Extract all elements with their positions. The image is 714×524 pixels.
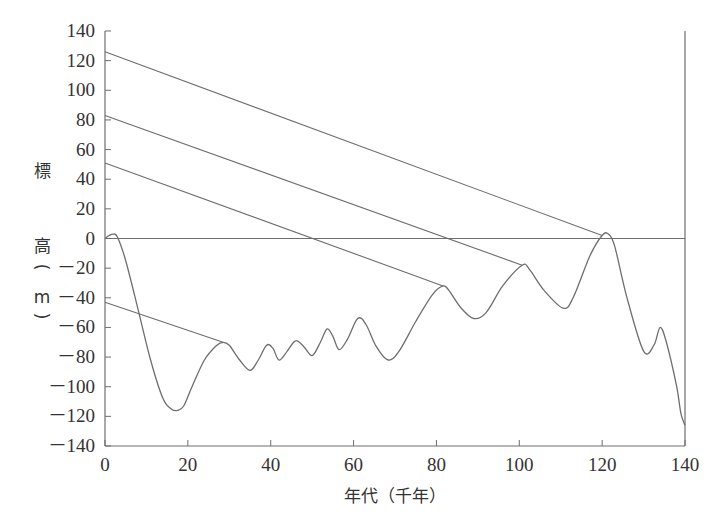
y-axis-ticks: 140120100806040200－20－40－60－80－100－120－1… <box>48 20 112 456</box>
terrace-line <box>105 302 223 342</box>
x-axis-ticks: 020406080100120140 <box>100 440 699 475</box>
terrace-line <box>105 52 602 236</box>
x-tick-label: 80 <box>427 454 446 475</box>
sea-level-curve <box>105 233 685 426</box>
y-tick-label: 140 <box>67 20 96 41</box>
y-tick-label: －140 <box>48 435 96 456</box>
y-axis-title-char: ( <box>32 264 52 271</box>
x-tick-label: 140 <box>671 454 700 475</box>
x-axis-title: 年代（千年） <box>344 486 446 506</box>
y-axis-title-char: 標 <box>34 161 51 181</box>
terrace-lines <box>105 52 602 343</box>
y-tick-label: 80 <box>76 109 95 130</box>
x-tick-label: 40 <box>261 454 280 475</box>
x-tick-label: 100 <box>505 454 534 475</box>
y-tick-label: －80 <box>57 346 95 367</box>
y-tick-label: －120 <box>48 405 96 426</box>
x-tick-label: 0 <box>100 454 110 475</box>
y-tick-label: 40 <box>76 168 95 189</box>
terrace-line <box>105 163 443 286</box>
y-tick-label: 0 <box>86 228 96 249</box>
y-axis-title-char: ) <box>32 313 52 320</box>
axes <box>105 31 685 446</box>
x-tick-label: 20 <box>178 454 197 475</box>
sea-level-chart: 140120100806040200－20－40－60－80－100－120－1… <box>0 0 714 524</box>
y-tick-label: －20 <box>57 257 95 278</box>
y-axis-title-char: 高 <box>34 236 51 256</box>
x-tick-label: 120 <box>588 454 617 475</box>
y-tick-label: 100 <box>67 79 96 100</box>
y-tick-label: －40 <box>57 287 95 308</box>
y-tick-label: 120 <box>67 50 96 71</box>
y-tick-label: －60 <box>57 316 95 337</box>
sea-level-curve-path <box>105 233 685 426</box>
y-tick-label: 20 <box>76 198 95 219</box>
terrace-line <box>105 115 522 265</box>
y-axis-title: 標高(m) <box>32 161 52 319</box>
y-tick-label: 60 <box>76 139 95 160</box>
x-tick-label: 60 <box>344 454 363 475</box>
y-tick-label: －100 <box>48 376 96 397</box>
y-axis-title-char: m <box>34 287 51 307</box>
